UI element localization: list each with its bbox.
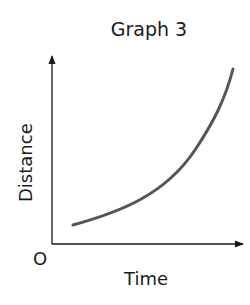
distance-time-curve bbox=[73, 69, 233, 225]
origin-label: O bbox=[33, 248, 47, 269]
x-axis-label: Time bbox=[123, 268, 168, 289]
y-axis-label: Distance bbox=[15, 123, 36, 202]
chart-canvas: O Time Distance bbox=[0, 0, 250, 305]
